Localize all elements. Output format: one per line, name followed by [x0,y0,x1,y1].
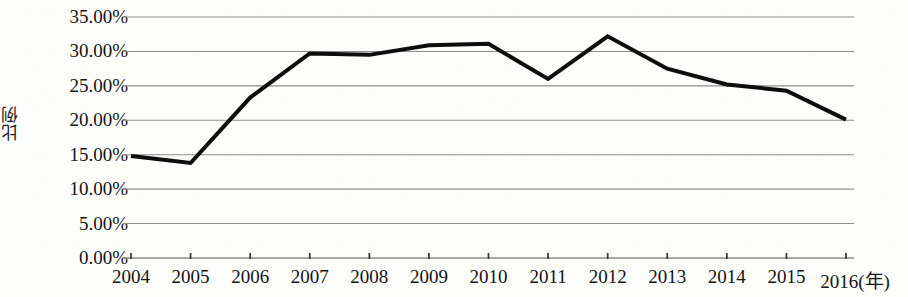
x-axis-tick-label: 2004 [112,266,150,288]
x-axis-tick-label: 2016(年) [820,266,890,293]
line-chart: 比例 0.00%5.00%10.00%15.00%20.00%25.00%30.… [0,0,908,297]
x-axis-tick-label: 2006 [231,266,269,288]
x-axis-tick-label: 2014 [708,266,746,288]
x-axis-tick-labels: 2004200520062007200820092010201120122013… [0,0,908,297]
x-axis-tick-label: 2015 [767,266,805,288]
x-axis-tick-label: 2010 [470,266,508,288]
x-axis-tick-label: 2009 [410,266,448,288]
x-axis-tick-label: 2013 [648,266,686,288]
x-axis-tick-label: 2007 [291,266,329,288]
x-axis-tick-label: 2008 [350,266,388,288]
x-axis-tick-label: 2005 [172,266,210,288]
x-axis-tick-label: 2011 [529,266,566,288]
x-axis-tick-label: 2012 [589,266,627,288]
